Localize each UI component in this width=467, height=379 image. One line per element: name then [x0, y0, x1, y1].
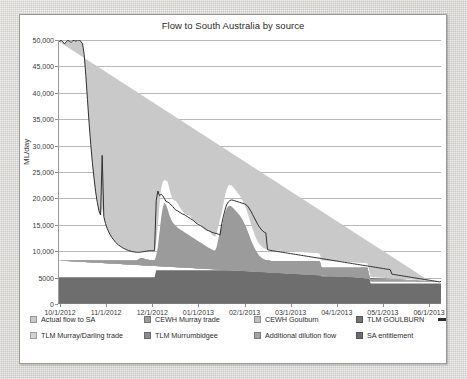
- y-axis-tick-mark: [55, 251, 58, 252]
- y-axis-tick-label: 25,000: [33, 169, 54, 176]
- chart-panel: Flow to South Australia by source ML/day…: [19, 14, 447, 364]
- legend-color-swatch: [254, 332, 261, 339]
- legend-row-1: Actual flow to SACEWH Murray tradeCEWH G…: [26, 315, 440, 331]
- legend-item[interactable]: CEWH Murray trade: [144, 315, 220, 324]
- legend-color-swatch: [30, 316, 37, 323]
- legend-item[interactable]: Actual flow to SA: [30, 315, 95, 324]
- y-axis-tick-mark: [55, 119, 58, 120]
- legend-item[interactable]: SA entitlement: [356, 331, 413, 340]
- x-axis-tick-mark: [245, 304, 246, 307]
- x-axis-tick-mark: [429, 304, 430, 307]
- y-axis-tick-mark: [55, 40, 58, 41]
- y-axis-label: ML/day: [22, 139, 31, 165]
- legend-color-swatch: [30, 332, 37, 339]
- y-axis-tick-mark: [55, 225, 58, 226]
- x-axis-tick-mark: [152, 304, 153, 307]
- y-axis-tick-mark: [55, 66, 58, 67]
- legend-item[interactable]: Additional dilution flow: [254, 331, 336, 340]
- x-axis-tick-mark: [60, 304, 61, 307]
- chart-legend: Actual flow to SACEWH Murray tradeCEWH G…: [26, 315, 440, 357]
- y-axis-tick-label: 15,000: [33, 221, 54, 228]
- y-axis-tick-mark: [55, 172, 58, 173]
- legend-item-label: CEWH Goulburn: [265, 315, 319, 324]
- legend-color-swatch: [144, 316, 151, 323]
- x-axis-tick-mark: [106, 304, 107, 307]
- chart-graphic: [58, 40, 441, 304]
- legend-item-label: Actual flow to SA: [41, 315, 95, 324]
- y-axis-line: [58, 40, 59, 304]
- legend-item[interactable]: QSA: [438, 315, 447, 324]
- y-axis-tick-label: 45,000: [33, 63, 54, 70]
- legend-line-swatch: [438, 318, 447, 321]
- y-axis-tick-label: 0: [50, 301, 54, 308]
- legend-color-swatch: [356, 316, 363, 323]
- plot-area: 50,00045,00040,00035,00030,00025,00020,0…: [58, 40, 441, 304]
- legend-item-label: TLM Murray/Darling trade: [41, 331, 123, 340]
- legend-item-label: SA entitlement: [367, 331, 413, 340]
- legend-color-swatch: [356, 332, 363, 339]
- legend-item[interactable]: TLM Murrumbidgee: [144, 331, 218, 340]
- y-axis-tick-label: 50,000: [33, 37, 54, 44]
- x-axis-tick-mark: [291, 304, 292, 307]
- x-axis-tick-mark: [198, 304, 199, 307]
- y-axis-tick-label: 35,000: [33, 116, 54, 123]
- x-axis-tick-mark: [337, 304, 338, 307]
- legend-item-label: Additional dilution flow: [265, 331, 336, 340]
- y-axis-tick-label: 5000: [38, 274, 54, 281]
- legend-item-label: CEWH Murray trade: [155, 315, 220, 324]
- legend-item[interactable]: CEWH Goulburn: [254, 315, 319, 324]
- legend-row-2: TLM Murray/Darling tradeTLM Murrumbidgee…: [26, 331, 440, 347]
- legend-item-label: TLM Murrumbidgee: [155, 331, 218, 340]
- y-axis-tick-mark: [55, 198, 58, 199]
- x-axis-tick-mark: [383, 304, 384, 307]
- y-axis-tick-mark: [55, 278, 58, 279]
- y-axis-tick-mark: [55, 146, 58, 147]
- y-axis-tick-label: 40,000: [33, 89, 54, 96]
- legend-item[interactable]: TLM Murray/Darling trade: [30, 331, 123, 340]
- legend-color-swatch: [254, 316, 261, 323]
- y-axis-tick-mark: [55, 93, 58, 94]
- legend-item-label: TLM GOULBURN: [367, 315, 424, 324]
- y-axis-tick-label: 20,000: [33, 195, 54, 202]
- legend-item[interactable]: TLM GOULBURN: [356, 315, 424, 324]
- y-axis-tick-label: 10,000: [33, 248, 54, 255]
- chart-title: Flow to South Australia by source: [20, 20, 446, 31]
- y-axis-tick-label: 30,000: [33, 142, 54, 149]
- legend-color-swatch: [144, 332, 151, 339]
- y-axis-tick-mark: [55, 304, 58, 305]
